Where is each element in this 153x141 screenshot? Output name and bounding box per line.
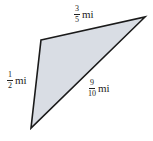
numerator: 9 bbox=[89, 79, 95, 89]
side-label-hypotenuse: 9 10 mi bbox=[88, 79, 110, 98]
side-label-top: 3 5 mi bbox=[74, 5, 94, 24]
numerator: 1 bbox=[7, 71, 13, 81]
triangle-shape bbox=[31, 17, 145, 128]
unit: mi bbox=[82, 9, 94, 20]
fraction: 3 5 bbox=[74, 5, 80, 24]
denominator: 10 bbox=[88, 89, 96, 98]
side-label-left: 1 2 mi bbox=[7, 71, 27, 90]
fraction: 9 10 bbox=[88, 79, 96, 98]
numerator: 3 bbox=[74, 5, 80, 15]
denominator: 5 bbox=[75, 15, 79, 24]
denominator: 2 bbox=[8, 81, 12, 90]
fraction: 1 2 bbox=[7, 71, 13, 90]
unit: mi bbox=[15, 75, 27, 86]
unit: mi bbox=[98, 83, 110, 94]
